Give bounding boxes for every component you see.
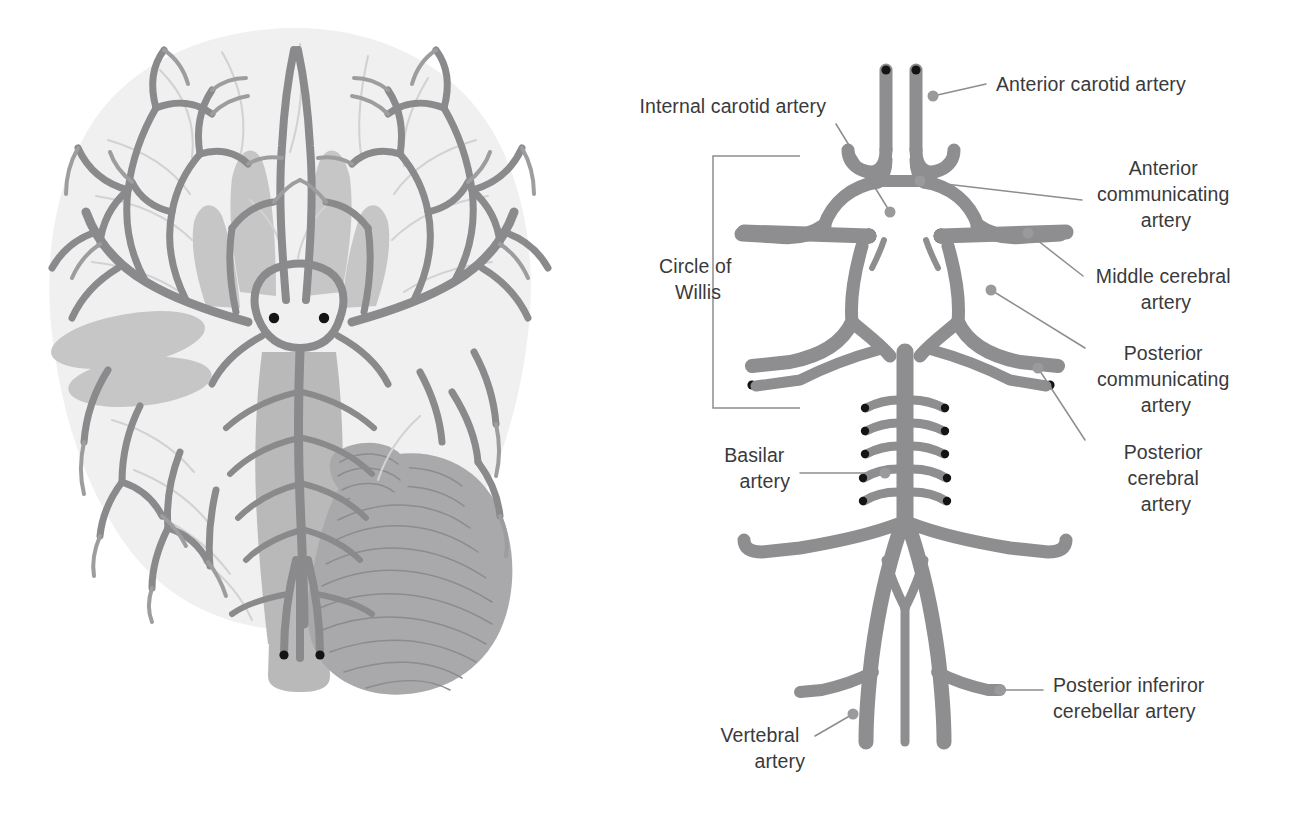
label-basilar-artery: Basilar artery: [724, 444, 790, 492]
schematic-vessels: [742, 65, 1066, 742]
leader-dot-vertebral-artery: [848, 709, 859, 720]
leader-dot-anterior-carotid-artery: [928, 91, 939, 102]
posterior-communicating-arteries: [851, 246, 958, 322]
leader-dot-internal-carotid-artery: [885, 207, 896, 218]
anterior-cerebral-arteries: [886, 70, 916, 150]
right-schematic-panel: Internal carotid artery Anterior carotid…: [0, 0, 1289, 832]
leader-dot-posterior-inferior-cerebellar-artery: [995, 685, 1006, 696]
label-internal-carotid-artery: Internal carotid artery: [639, 95, 826, 117]
leader-dot-basilar-artery: [880, 468, 891, 479]
anterior-spinal-artery: [886, 560, 924, 742]
anterior-cerebral-lumen-left: [881, 65, 890, 74]
leader-dot-middle-cerebral-artery: [1023, 228, 1034, 239]
leader-anterior-carotid-artery: [933, 84, 986, 96]
leader-vertebral-artery: [815, 714, 853, 736]
middle-cerebral-arteries: [744, 232, 1066, 236]
label-vertebral-artery: Vertebral artery: [721, 724, 806, 772]
lenticulostriate-twigs: [872, 240, 938, 268]
leader-posterior-cerebral-artery: [1038, 368, 1085, 440]
circle-of-willis-ring: [824, 182, 978, 226]
posterior-inferior-cerebellar-arteries: [800, 672, 1000, 692]
label-anterior-carotid-artery: Anterior carotid artery: [996, 73, 1186, 95]
leader-dot-posterior-cerebral-artery: [1033, 363, 1044, 374]
label-posterior-cerebral-artery: Posterior cerebral artery: [1124, 441, 1208, 515]
leader-dot-posterior-communicating-artery: [986, 285, 997, 296]
leader-dot-anterior-communicating-artery: [915, 176, 926, 187]
label-anterior-communicating-artery: Anterior communicating artery: [1097, 157, 1235, 231]
label-middle-cerebral-artery: Middle cerebral artery: [1096, 265, 1236, 313]
leader-posterior-communicating-artery: [991, 290, 1085, 348]
label-circle-of-willis: Circle of Willis: [659, 255, 737, 303]
figure-root: Internal carotid artery Anterior carotid…: [0, 0, 1289, 832]
label-posterior-communicating-artery: Posterior communicating artery: [1097, 342, 1235, 416]
label-posterior-inferior-cerebellar-artery: Posterior inferiror cerebellar artery: [1053, 674, 1210, 722]
anterior-cerebral-lumen-right: [911, 65, 920, 74]
